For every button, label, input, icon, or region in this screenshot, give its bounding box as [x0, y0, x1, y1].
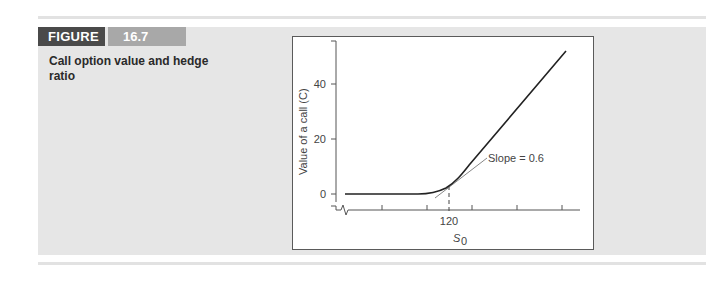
- slope-annotation: Slope = 0.6: [488, 152, 544, 164]
- call-option-chart: 40 20 0 Value of a call (C) 120 S 0 Slop…: [0, 0, 725, 282]
- y-label-0: 0: [320, 188, 326, 200]
- x-label-120: 120: [440, 215, 458, 227]
- axis-break-icon: [336, 205, 348, 215]
- tangent-line: [435, 158, 487, 198]
- y-label-20: 20: [314, 133, 326, 145]
- x-axis-title-subscript: 0: [461, 235, 467, 247]
- call-value-curve: [345, 51, 566, 194]
- y-label-40: 40: [314, 78, 326, 90]
- x-axis-title: S: [453, 232, 461, 244]
- y-axis-title: Value of a call (C): [297, 88, 309, 175]
